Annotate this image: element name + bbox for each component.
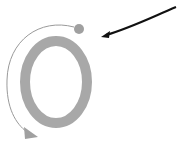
diagram-svg	[0, 0, 179, 146]
diagram-canvas	[0, 0, 179, 146]
pointer-arrow-head	[101, 31, 110, 38]
gray-ring	[25, 41, 87, 123]
position-dot	[74, 24, 84, 34]
rotation-arrow-head	[24, 127, 38, 139]
pointer-arrow-line	[106, 7, 176, 35]
